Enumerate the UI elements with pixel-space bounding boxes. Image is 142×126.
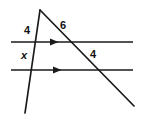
right-transversal-line bbox=[40, 10, 134, 106]
label-top-left-segment: 4 bbox=[24, 25, 30, 36]
label-top-right-segment: 6 bbox=[60, 20, 66, 31]
label-lower-left-segment: x bbox=[21, 50, 27, 61]
geometry-figure: 4 6 x 4 bbox=[0, 0, 142, 126]
geometry-canvas bbox=[0, 0, 142, 126]
label-lower-right-segment: 4 bbox=[90, 49, 96, 60]
upper-line-arrow-icon bbox=[50, 38, 59, 45]
lower-line-arrow-icon bbox=[53, 66, 62, 73]
